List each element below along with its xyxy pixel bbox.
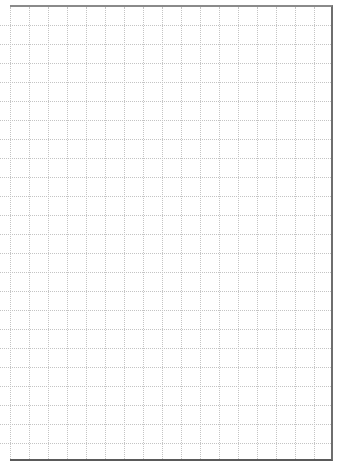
grid-horizontal-line — [0, 367, 331, 368]
grid-horizontal-line — [0, 101, 331, 102]
grid-horizontal-line — [0, 272, 331, 273]
grid-vertical-line — [238, 7, 239, 459]
grid-vertical-line — [162, 7, 163, 459]
grid-vertical-line — [29, 7, 30, 459]
grid-horizontal-line — [0, 291, 331, 292]
grid-vertical-line — [200, 7, 201, 459]
grid-vertical-line — [314, 7, 315, 459]
grid-horizontal-line — [0, 329, 331, 330]
grid-horizontal-line — [0, 196, 331, 197]
grid-horizontal-line — [0, 120, 331, 121]
grid-horizontal-line — [0, 348, 331, 349]
grid-horizontal-line — [0, 82, 331, 83]
grid-vertical-line — [86, 7, 87, 459]
grid-horizontal-line — [0, 25, 331, 26]
grid-horizontal-line — [0, 234, 331, 235]
grid-vertical-line — [219, 7, 220, 459]
grid-horizontal-line — [0, 63, 331, 64]
grid-paper-page — [10, 5, 333, 461]
grid-horizontal-line — [0, 158, 331, 159]
grid-horizontal-line — [0, 443, 331, 444]
grid-horizontal-line — [0, 310, 331, 311]
grid-lines — [10, 7, 331, 459]
grid-vertical-line — [276, 7, 277, 459]
grid-vertical-line — [181, 7, 182, 459]
grid-vertical-line — [124, 7, 125, 459]
grid-vertical-line — [105, 7, 106, 459]
grid-vertical-line — [143, 7, 144, 459]
grid-vertical-line — [48, 7, 49, 459]
grid-vertical-line — [10, 7, 11, 459]
grid-horizontal-line — [0, 424, 331, 425]
grid-horizontal-line — [0, 177, 331, 178]
grid-vertical-line — [295, 7, 296, 459]
grid-vertical-line — [257, 7, 258, 459]
grid-horizontal-line — [0, 215, 331, 216]
grid-vertical-line — [67, 7, 68, 459]
grid-horizontal-line — [0, 44, 331, 45]
grid-horizontal-line — [0, 139, 331, 140]
grid-horizontal-line — [0, 405, 331, 406]
grid-horizontal-line — [0, 253, 331, 254]
grid-horizontal-line — [0, 386, 331, 387]
